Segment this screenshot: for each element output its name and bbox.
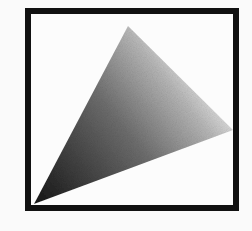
wedge-diagram bbox=[0, 0, 252, 231]
gradient-wedge bbox=[34, 26, 233, 204]
